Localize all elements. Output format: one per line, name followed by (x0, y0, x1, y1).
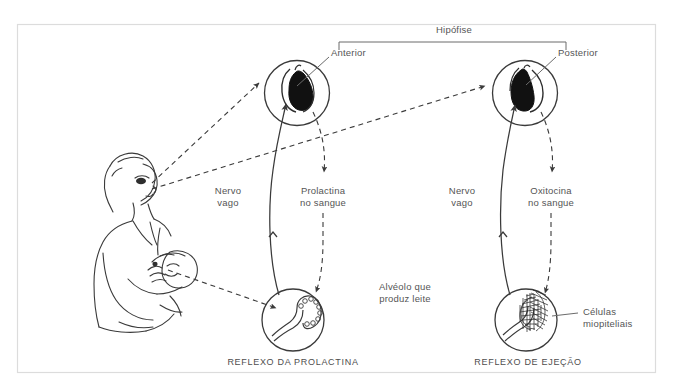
label-nervo-vago-right: Nervo vago (432, 185, 492, 209)
caption-reflexo-ejecao: REFLEXO DE EJEÇÃO (458, 356, 598, 368)
label-posterior: Posterior (558, 47, 620, 59)
arrow-oxitocina-to-alveolus (545, 240, 551, 293)
posterior-pituitary-circle (493, 61, 558, 126)
figure-canvas: Hipófise Anterior Posterior Nervo vago P… (0, 0, 676, 383)
label-celulas-miopiteliais: Células miopiteliais (583, 306, 653, 330)
arrow-suckling-to-posterior (152, 86, 485, 189)
arrow-prolactina-to-alveolus (316, 240, 323, 292)
vagus-right-midtick (499, 232, 507, 237)
label-nervo-vago-left: Nervo vago (198, 185, 258, 209)
label-prolactina: Prolactina no sangue (285, 185, 361, 209)
label-oxitocina: Oxitocina no sangue (513, 185, 589, 209)
arrow-breast-to-left-alveolus (168, 270, 276, 308)
anterior-pituitary-circle (265, 61, 330, 126)
caption-reflexo-prolactina: REFLEXO DA PROLACTINA (213, 356, 373, 368)
label-anterior: Anterior (331, 47, 391, 59)
milk-producing-alveolus-circle (262, 289, 324, 351)
title-hipofise: Hipófise (424, 24, 484, 36)
myoepithelial-alveolus-circle (495, 289, 557, 351)
arrow-suckling-to-anterior (152, 83, 259, 183)
arrow-vagus-nerve-left (270, 104, 286, 295)
label-alveolo: Alvéolo que produz leite (362, 281, 448, 305)
